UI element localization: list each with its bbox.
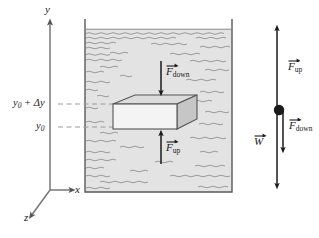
figure-canvas: y x z y0 + Δy y0 Fdown Fup Fup Fdown W: [0, 0, 319, 238]
f-up-symbol-tank: F: [166, 141, 173, 153]
z-axis: [31, 190, 50, 216]
height-marker-upper: y0 + Δy: [13, 98, 45, 109]
f-down-symbol-fbd: F: [289, 119, 296, 131]
particle-dot: [274, 105, 284, 115]
f-up-subscript-tank: up: [173, 146, 181, 155]
x-axis-label: x: [75, 184, 80, 195]
diagram-vector-layer: [0, 0, 319, 238]
submerged-block: [113, 95, 197, 129]
f-up-label-tank: Fup: [166, 142, 180, 154]
f-up-symbol-fbd: F: [288, 60, 295, 72]
w-label-fbd: W: [254, 136, 263, 147]
f-down-subscript-tank: down: [173, 70, 190, 79]
w-symbol-fbd: W: [254, 135, 263, 147]
free-body-diagram: [274, 28, 284, 186]
height-marker-upper-suffix: + Δy: [21, 97, 44, 108]
f-down-label-tank: Fdown: [166, 66, 189, 78]
height-marker-lower-subscript: 0: [41, 124, 45, 133]
block-front-face: [113, 104, 177, 129]
height-marker-lower: y0: [36, 121, 44, 132]
z-axis-label: z: [24, 212, 28, 223]
y-axis-label: y: [45, 4, 50, 15]
f-up-subscript-fbd: up: [295, 65, 303, 74]
f-down-subscript-fbd: down: [296, 124, 313, 133]
f-down-symbol-tank: F: [166, 65, 173, 77]
f-down-label-fbd: Fdown: [289, 120, 312, 132]
coordinate-axes: [31, 22, 72, 216]
f-up-label-fbd: Fup: [288, 61, 302, 73]
